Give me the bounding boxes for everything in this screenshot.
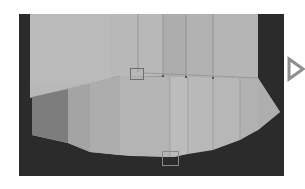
play-triangle-icon xyxy=(286,56,305,82)
viewport-canvas[interactable] xyxy=(0,0,305,189)
lower-surface-strip xyxy=(188,77,213,154)
lower-surface-strip xyxy=(170,77,188,157)
lower-surface-strip xyxy=(90,76,120,155)
lower-surface-strip xyxy=(240,78,258,140)
upper-surface-strip xyxy=(213,14,258,78)
upper-surface-strip xyxy=(186,14,213,78)
lower-surface-strip xyxy=(120,76,170,157)
3d-viewport[interactable] xyxy=(0,0,305,189)
selection-handle-bottom[interactable] xyxy=(162,151,179,166)
upper-surface-strip xyxy=(163,14,186,78)
selection-handle-top[interactable] xyxy=(130,68,144,80)
lower-surface-strip xyxy=(68,84,90,152)
lower-surface-strip xyxy=(32,89,68,143)
upper-surface-strip xyxy=(30,14,110,84)
app-window xyxy=(0,0,305,189)
play-button[interactable] xyxy=(286,56,305,82)
lower-surface-strip xyxy=(213,78,240,150)
